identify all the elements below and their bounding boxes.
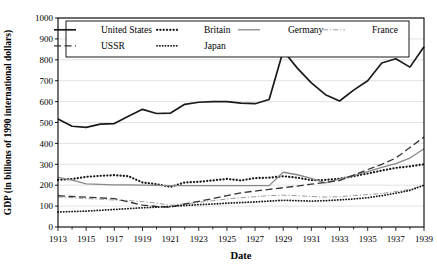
y-axis-tick-label: 300 [40, 160, 54, 170]
x-axis-tick-label: 1925 [218, 234, 237, 244]
y-axis-tick-label: 0 [49, 222, 54, 232]
chart-figure: 0100200300400500600700800900100019131915… [0, 0, 437, 266]
legend-label: Japan [204, 41, 226, 51]
x-axis-tick-label: 1937 [387, 234, 406, 244]
y-axis-tick-label: 100 [40, 201, 54, 211]
y-axis-tick-label: 900 [40, 34, 54, 44]
x-axis-tick-label: 1919 [133, 234, 152, 244]
x-axis-tick-label: 1929 [274, 234, 293, 244]
x-axis-tick-label: 1927 [246, 234, 265, 244]
gdp-line-chart: 0100200300400500600700800900100019131915… [0, 0, 437, 266]
y-axis-tick-label: 600 [40, 97, 54, 107]
x-axis-tick-label: 1913 [49, 234, 68, 244]
legend-label: USSR [101, 41, 125, 51]
x-axis-tick-label: 1915 [77, 234, 96, 244]
y-axis-tick-label: 800 [40, 55, 54, 65]
x-axis-tick-label: 1939 [415, 234, 434, 244]
legend-label: Britain [204, 25, 231, 35]
legend-label: Germany [288, 25, 324, 35]
y-axis-tick-label: 1000 [35, 13, 54, 23]
x-axis-tick-label: 1923 [190, 234, 209, 244]
x-axis-tick-label: 1935 [359, 234, 378, 244]
y-axis-tick-label: 200 [40, 180, 54, 190]
x-axis-title: Date [231, 250, 252, 261]
y-axis-tick-label: 700 [40, 76, 54, 86]
x-axis-tick-label: 1917 [105, 234, 124, 244]
y-axis-tick-label: 400 [40, 139, 54, 149]
x-axis-tick-label: 1921 [162, 234, 180, 244]
y-axis-tick-label: 500 [40, 118, 54, 128]
x-axis-tick-label: 1931 [302, 234, 320, 244]
legend-label: France [372, 25, 398, 35]
y-axis-title: GDP (in billions of 1990 international d… [3, 30, 14, 215]
legend-label: United States [101, 25, 152, 35]
x-axis-tick-label: 1933 [331, 234, 350, 244]
